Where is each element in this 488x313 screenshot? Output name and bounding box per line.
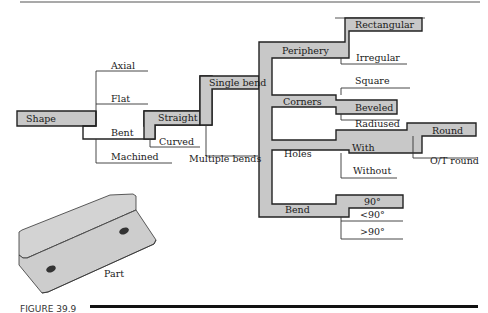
label-lt90: <90°	[360, 209, 385, 220]
label-periphery: Periphery	[282, 45, 330, 56]
label-square: Square	[355, 75, 390, 86]
label-axial: Axial	[110, 60, 135, 71]
label-ot-round: O/T round	[430, 155, 479, 166]
label-rectangular: Rectangular	[355, 19, 415, 30]
label-bend: Bend	[285, 204, 310, 215]
figure-caption: FIGURE 39.9	[20, 304, 77, 313]
label-irregular: Irregular	[356, 52, 400, 63]
label-beveled: Beveled	[355, 102, 393, 113]
bottom-rule	[90, 305, 478, 308]
label-shape: Shape	[26, 113, 56, 124]
label-bent: Bent	[111, 127, 134, 138]
label-round: Round	[432, 125, 463, 136]
label-flat: Flat	[111, 93, 130, 104]
label-90: 90°	[364, 196, 381, 207]
label-curved: Curved	[159, 136, 194, 147]
label-radiused: Radiused	[355, 118, 400, 129]
label-holes: Holes	[284, 148, 312, 159]
label-part: Part	[104, 268, 124, 279]
label-with: With	[352, 142, 375, 153]
part-illustration	[19, 194, 156, 293]
label-gt90: >90°	[360, 226, 385, 237]
label-corners: Corners	[283, 96, 322, 107]
label-single-bend: Single bend	[209, 77, 266, 88]
label-straight: Straight	[158, 112, 198, 123]
label-multiple-bends: Multiple bends	[189, 153, 261, 164]
label-machined: Machined	[111, 151, 159, 162]
classification-tree-diagram: Shape Axial Flat Bent Machined Straight …	[0, 0, 488, 313]
label-without: Without	[353, 165, 391, 176]
